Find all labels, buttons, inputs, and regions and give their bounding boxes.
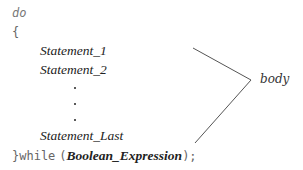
do-while-diagram: do { Statement_1 Statement_2 Statement_L… bbox=[0, 0, 303, 170]
body-bracket-lines bbox=[0, 0, 303, 170]
body-label: body bbox=[260, 72, 289, 86]
